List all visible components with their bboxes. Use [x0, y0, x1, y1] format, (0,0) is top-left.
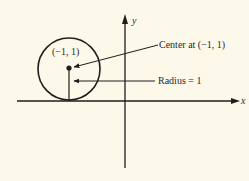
- center-annotation-label: Center at (−1, 1): [159, 39, 225, 51]
- x-axis: x: [17, 95, 246, 106]
- circle-diagram: x y (−1, 1) Center at (−1, 1) Radius = 1: [0, 0, 249, 181]
- diagram-svg: x y (−1, 1) Center at (−1, 1) Radius = 1: [0, 0, 249, 181]
- x-axis-label: x: [240, 95, 246, 106]
- center-annotation-arrow: [74, 45, 158, 67]
- y-axis-label: y: [131, 15, 137, 26]
- x-axis-arrow-icon: [231, 98, 240, 104]
- center-coordinate-label: (−1, 1): [52, 46, 79, 58]
- radius-annotation-label: Radius = 1: [158, 75, 201, 86]
- y-axis: y: [122, 14, 137, 168]
- y-axis-arrow-icon: [122, 14, 128, 24]
